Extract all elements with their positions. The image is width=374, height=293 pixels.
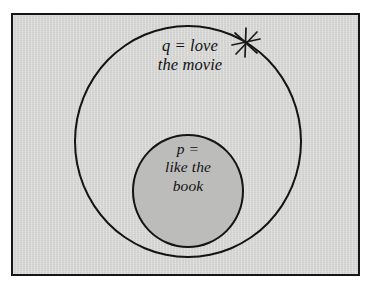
inner-circle-label: p = like the book: [140, 140, 236, 195]
euler-diagram-figure: q = love the movie p = like the book: [0, 0, 374, 293]
asterisk-icon: [228, 25, 264, 61]
